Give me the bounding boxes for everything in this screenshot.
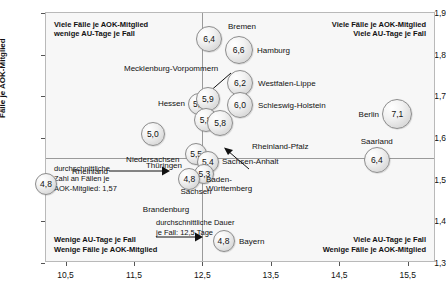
bubble-saarland[interactable]: 6,4	[364, 147, 390, 173]
bubble-label-sachsen-anhalt: Sachsen-Anhalt	[222, 157, 278, 166]
quadrant-caption-bottom-left-line1: Wenige AU-Tage je Fall	[54, 235, 157, 244]
x-tickmark	[271, 262, 272, 266]
bubble-label-thueringen: Thüringen	[146, 161, 182, 170]
bubble-baden-wuerttemberg[interactable]: 4,8	[178, 168, 200, 190]
x-tickmark	[408, 262, 409, 266]
bubble-value-baden-wuerttemberg: 4,8	[183, 174, 195, 184]
bubble-label-brandenburg: Brandenburg	[143, 205, 189, 214]
bubble-value-berlin: 7,1	[391, 109, 403, 119]
bubble-label-saarland: Saarland	[361, 137, 393, 146]
x-tick-10-5: 10,5	[36, 270, 96, 280]
quadrant-caption-top-right: Viele Fälle je AOK-Mitglied Viele AU-Tag…	[332, 20, 426, 39]
bubble-value-bayern: 4,8	[218, 236, 230, 246]
bubble-label-berlin: Berlin	[359, 109, 379, 118]
bubble-hamburg[interactable]: 6,6	[225, 36, 253, 64]
bubble-rheinland-pfalz[interactable]: 5,8	[207, 110, 233, 136]
bubble-value-saarland: 6,4	[371, 155, 383, 165]
x-tick-12-5: 12,5	[172, 270, 232, 280]
x-tick-13-5: 13,5	[241, 270, 301, 280]
y-tickmark	[41, 263, 45, 264]
bubble-label-rheinland: Rheinland	[72, 167, 108, 176]
quadrant-caption-top-left-line2: wenige AU-Tage je Fall	[54, 29, 148, 38]
quadrant-caption-bottom-left: Wenige AU-Tage je Fall Wenige Fälle je A…	[54, 235, 157, 254]
quadrant-caption-bottom-right-line2: Wenige Fälle je AOK-Mitglied	[323, 245, 426, 254]
note-average-duration-line1: durchschnittliche Dauer	[156, 218, 234, 228]
bubble-value-westfalen-lippe: 6,2	[234, 78, 246, 88]
bubble-mecklenburg-vorpommern[interactable]: 5,9	[196, 87, 220, 111]
bubble-label-schleswig-holstein: Schleswig-Holstein	[258, 100, 326, 109]
bubble-value-mecklenburg-vorpommern: 5,9	[202, 94, 214, 104]
bubble-value-schleswig-holstein: 6,0	[234, 100, 246, 110]
bubble-label-hamburg: Hamburg	[257, 46, 290, 55]
x-tickmark	[66, 262, 67, 266]
plot-area: Viele Fälle je AOK-Mitglied wenige AU-Ta…	[45, 12, 435, 262]
bubble-value-hamburg: 6,6	[233, 45, 245, 55]
bubble-value-niedersachsen: 5,0	[147, 129, 159, 139]
bubble-bremen[interactable]: 6,4	[196, 26, 222, 52]
bubble-label-mecklenburg-vorpommern: Mecklenburg-Vorpommern	[124, 64, 218, 73]
note-average-cases-line3: AOK-Mitglied: 1,57	[54, 184, 117, 194]
bubble-schleswig-holstein[interactable]: 6,0	[227, 92, 253, 118]
bubble-value-rheinland-pfalz: 5,8	[214, 118, 226, 128]
quadrant-caption-top-right-line1: Viele Fälle je AOK-Mitglied	[332, 20, 426, 29]
quadrant-caption-top-left-line1: Viele Fälle je AOK-Mitglied	[54, 20, 148, 29]
bubble-label-baden-wuerttemberg-line2: Württemberg	[206, 185, 252, 194]
bubble-chart: Fälle je AOK-Mitglied 1,9 1,8 1,7 1,6 1,…	[0, 0, 446, 296]
bubble-value-brandenburg: 4,8	[40, 179, 52, 189]
x-tickmark	[134, 262, 135, 266]
quadrant-caption-bottom-right: Viele AU-Tage je Fall Wenige Fälle je AO…	[323, 235, 426, 254]
bubble-berlin[interactable]: 7,1	[382, 99, 412, 129]
quadrant-caption-bottom-left-line2: Wenige Fälle je AOK-Mitglied	[54, 245, 157, 254]
bubble-label-westfalen-lippe: Westfalen-Lippe	[258, 78, 316, 87]
x-tick-14-5: 14,5	[309, 270, 369, 280]
quadrant-caption-top-right-line2: Viele AU-Tage je Fall	[332, 29, 426, 38]
x-tick-11-5: 11,5	[104, 270, 164, 280]
bubble-label-baden-wuerttemberg: Baden- Württemberg	[206, 176, 252, 194]
quadrant-caption-top-left: Viele Fälle je AOK-Mitglied wenige AU-Ta…	[54, 20, 148, 39]
bubble-bayern[interactable]: 4,8	[213, 230, 235, 252]
y-axis-title: Fälle je AOK-Mitglied	[0, 38, 7, 118]
x-tickmark	[339, 262, 340, 266]
bubble-label-bremen: Bremen	[228, 22, 256, 31]
bubble-niedersachsen[interactable]: 5,0	[141, 122, 165, 146]
bubble-value-bremen: 6,4	[203, 34, 215, 44]
quadrant-caption-bottom-right-line1: Viele AU-Tage je Fall	[323, 235, 426, 244]
x-tick-15-5: 15,5	[378, 270, 438, 280]
bubble-label-hessen: Hessen	[158, 99, 185, 108]
bubble-brandenburg[interactable]: 4,8	[35, 173, 57, 195]
bubble-label-rheinland-pfalz: Rheinland-Pfalz	[252, 142, 308, 151]
bubble-label-bayern: Bayern	[239, 237, 264, 246]
x-tickmark	[202, 262, 203, 266]
